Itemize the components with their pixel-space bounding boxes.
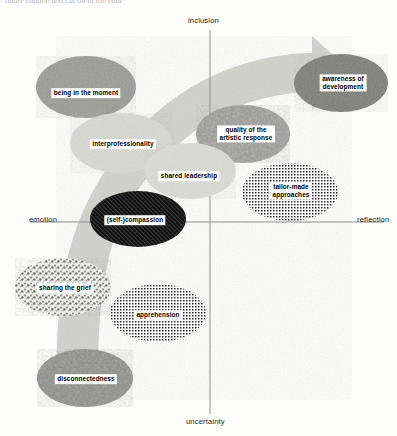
diagram-canvas: figure caption text cut off at top edge — [0, 0, 397, 436]
node-label-sharing-the-grief: sharing the grief — [37, 283, 94, 293]
axis-label-emotion: emotion — [29, 215, 57, 224]
node-label-disconnectedness: disconnectedness — [55, 374, 117, 384]
diagram-graphics — [0, 0, 397, 436]
node-label-tailor-made-approaches: tailor-made approaches — [270, 182, 312, 199]
node-label-interprofessionality: interprofessionality — [90, 139, 156, 149]
axis-label-uncertainty: uncertainty — [186, 417, 225, 426]
node-label-shared-leadership: shared leadership — [158, 171, 219, 181]
node-label-awareness-of-development: awareness of development — [320, 74, 367, 91]
axis-label-reflection: reflection — [357, 215, 389, 224]
axis-label-inclusion: inclusion — [188, 16, 219, 25]
node-label-being-in-the-moment: being in the moment — [51, 88, 120, 98]
node-being-in-the-moment[interactable] — [36, 56, 136, 118]
node-label-self-compassion: (self-)compassion — [104, 215, 165, 225]
node-label-apprehension: apprehension — [134, 310, 182, 320]
node-label-quality-of-the-artistic-response: quality of the artistic response — [217, 125, 275, 142]
